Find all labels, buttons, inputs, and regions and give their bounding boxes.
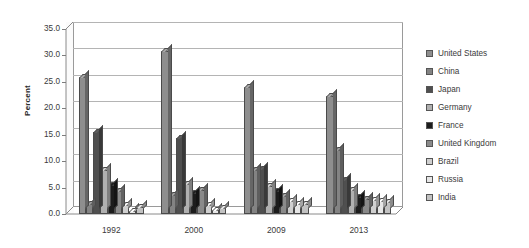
legend-item-japan[interactable]: Japan	[426, 80, 496, 98]
legend-label: India	[438, 193, 456, 202]
bar-chart: Percent 35.030.025.020.015.010.05.00.0 1…	[0, 0, 529, 248]
legend-label: Germany	[438, 103, 472, 112]
bar-side-face	[114, 178, 118, 209]
bar-side-face	[354, 183, 358, 209]
bar-side-face	[121, 184, 125, 209]
bar-side-face	[264, 162, 268, 209]
bar-side-face	[85, 70, 89, 209]
legend-swatch-icon	[426, 140, 433, 147]
bar-side-face	[333, 89, 337, 209]
y-tick-30-0: 30.0	[28, 50, 60, 59]
legend-item-germany[interactable]: Germany	[426, 98, 496, 116]
legend-swatch-icon	[426, 158, 433, 165]
bar-side-face	[143, 200, 147, 209]
bar-side-face	[347, 173, 351, 209]
x-tick-1992: 1992	[69, 225, 154, 235]
bar-side-face	[175, 188, 179, 209]
legend-item-united-kingdom[interactable]: United Kingdom	[426, 134, 496, 152]
x-tick-2009: 2009	[234, 225, 319, 235]
chart-legend: United StatesChinaJapanGermanyFranceUnit…	[426, 44, 496, 206]
bar-side-face	[204, 183, 208, 209]
legend-swatch-icon	[426, 86, 433, 93]
bar-united-states-2000	[161, 51, 168, 214]
bar-group-2009	[244, 22, 309, 214]
bar-side-face	[272, 179, 276, 209]
legend-swatch-icon	[426, 68, 433, 75]
bar-side-face	[369, 192, 373, 209]
legend-item-united-states[interactable]: United States	[426, 44, 496, 62]
legend-item-brazil[interactable]: Brazil	[426, 152, 496, 170]
bars-layer	[66, 22, 403, 214]
bar-group-2013	[326, 22, 391, 214]
y-tick-25-0: 25.0	[28, 77, 60, 86]
legend-swatch-icon	[426, 50, 433, 57]
legend-label: United States	[438, 49, 487, 58]
bar-side-face	[250, 80, 254, 209]
legend-item-france[interactable]: France	[426, 116, 496, 134]
legend-swatch-icon	[426, 122, 433, 129]
y-tick-0-0: 0.0	[28, 209, 60, 218]
legend-item-russia[interactable]: Russia	[426, 170, 496, 188]
legend-label: Brazil	[438, 157, 458, 166]
legend-swatch-icon	[426, 194, 433, 201]
bar-group-1992	[79, 22, 144, 214]
bar-side-face	[390, 195, 394, 209]
legend-swatch-icon	[426, 176, 433, 183]
bar-side-face	[279, 184, 283, 209]
bar-side-face	[257, 163, 261, 209]
x-tick-2013: 2013	[316, 225, 401, 235]
legend-item-china[interactable]: China	[426, 62, 496, 80]
bar-group-2000	[161, 22, 226, 214]
bar-russia-1992	[129, 211, 136, 214]
plot-area	[66, 22, 403, 214]
legend-label: Japan	[438, 85, 460, 94]
x-tick-2000: 2000	[151, 225, 236, 235]
y-tick-5-0: 5.0	[28, 183, 60, 192]
bar-side-face	[128, 198, 132, 209]
bar-united-states-2013	[326, 96, 333, 214]
bar-side-face	[340, 143, 344, 209]
bar-side-face	[182, 131, 186, 209]
y-tick-10-0: 10.0	[28, 156, 60, 165]
bar-side-face	[168, 44, 172, 209]
y-tick-35-0: 35.0	[28, 24, 60, 33]
legend-label: Russia	[438, 175, 463, 184]
bar-india-2000	[219, 208, 226, 214]
bar-side-face	[99, 125, 103, 209]
y-tick-20-0: 20.0	[28, 103, 60, 112]
bar-side-face	[308, 197, 312, 209]
bar-side-face	[225, 201, 229, 209]
bar-russia-2000	[212, 210, 219, 214]
legend-swatch-icon	[426, 104, 433, 111]
legend-label: China	[438, 67, 459, 76]
legend-label: France	[438, 121, 463, 130]
bar-side-face	[189, 177, 193, 209]
bar-united-states-1992	[79, 77, 86, 214]
bar-side-face	[107, 163, 111, 209]
y-tick-15-0: 15.0	[28, 130, 60, 139]
bar-united-states-2009	[244, 87, 251, 214]
bar-side-face	[286, 189, 290, 210]
axis-tick-mark	[62, 214, 66, 215]
legend-item-india[interactable]: India	[426, 188, 496, 206]
legend-label: United Kingdom	[438, 139, 496, 148]
